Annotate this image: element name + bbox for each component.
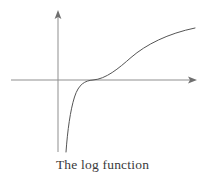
plot-area — [0, 0, 205, 177]
figure-caption: The log function — [0, 157, 205, 173]
log-curve — [66, 28, 195, 152]
log-function-figure: The log function — [0, 0, 205, 177]
